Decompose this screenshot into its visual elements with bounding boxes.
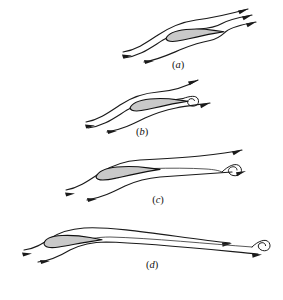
figure-container: (a) (b) (0, 0, 283, 300)
flow-direction-arrowhead (232, 150, 242, 155)
flow-direction-arrowhead (40, 260, 50, 264)
panel-label-a-close: ) (181, 59, 185, 71)
panel-label-c: (c) (152, 194, 164, 206)
flow-direction-arrowhead (236, 171, 246, 176)
starting-vortex (252, 240, 270, 250)
panel-label-d: (d) (146, 259, 159, 271)
panel-label-a: (a) (172, 59, 185, 71)
panel-label-b: (b) (136, 126, 149, 138)
panel-label-b-close: ) (145, 126, 149, 138)
panel-label-c-close: ) (160, 194, 164, 206)
flow-direction-arrowhead (238, 9, 248, 14)
airfoil-body (44, 235, 102, 247)
panel-label-d-close: ) (155, 259, 159, 271)
flow-direction-arrowhead (246, 22, 256, 27)
flow-direction-arrowhead (252, 254, 262, 258)
airfoil-body (166, 29, 224, 41)
panel-b: (b) (85, 80, 210, 138)
panel-d: (d) (22, 228, 270, 271)
flow-direction-arrowhead (242, 15, 252, 20)
flow-direction-arrowhead (65, 192, 75, 196)
flow-direction-arrowhead (22, 252, 32, 256)
flow-direction-arrowhead (188, 80, 198, 85)
panel-c: (c) (65, 150, 246, 206)
airfoil-starting-vortex-figure: (a) (b) (0, 0, 283, 300)
panel-a: (a) (122, 9, 256, 71)
airfoil-body (130, 99, 188, 111)
